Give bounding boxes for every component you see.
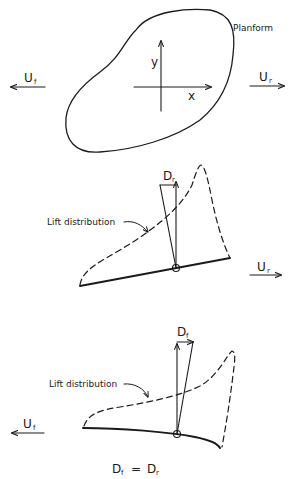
caption-equation: D f = D r xyxy=(112,462,159,477)
top-front-flow: U f xyxy=(11,71,45,87)
front-chord-line xyxy=(83,428,220,448)
rear-resultant xyxy=(160,185,176,268)
top-rear-flow: U r xyxy=(250,70,284,86)
rear-chord-line xyxy=(80,258,230,286)
caption-equals: = xyxy=(131,462,141,476)
uf-subscript: f xyxy=(34,78,37,86)
uf-bottom-subscript: f xyxy=(33,424,36,432)
caption-left-subscript: f xyxy=(121,469,124,477)
y-axis-label: y xyxy=(151,55,158,69)
planform-label: Planform xyxy=(233,23,273,33)
ur-mid-symbol: U xyxy=(257,260,266,274)
diagram-canvas: x y Planform U f U r D r Lift distributi… xyxy=(0,0,293,479)
front-section-group: D f Lift distribution U f xyxy=(12,325,235,448)
planform-outline xyxy=(66,9,234,152)
x-axis-label: x xyxy=(188,89,195,103)
uf-bottom-symbol: U xyxy=(23,417,32,431)
df-symbol: D xyxy=(177,325,186,339)
rear-section-group: D r Lift distribution U r xyxy=(47,165,281,286)
front-resultant xyxy=(177,342,193,434)
caption-left-symbol: D xyxy=(112,462,121,476)
uf-symbol: U xyxy=(24,71,33,85)
ur-symbol: U xyxy=(259,70,268,84)
front-lift-leader xyxy=(124,384,148,397)
front-lift-label: Lift distribution xyxy=(49,379,117,389)
ur-mid-subscript: r xyxy=(267,267,270,275)
rear-lift-label: Lift distribution xyxy=(47,217,115,227)
df-subscript: f xyxy=(186,332,189,340)
caption-right-subscript: r xyxy=(156,469,159,477)
caption-right-symbol: D xyxy=(147,462,156,476)
ur-subscript: r xyxy=(269,77,272,85)
rear-lift-leader xyxy=(124,222,148,232)
planform-group: x y Planform xyxy=(66,9,273,152)
dr-subscript: r xyxy=(172,176,175,184)
dr-symbol: D xyxy=(163,169,172,183)
